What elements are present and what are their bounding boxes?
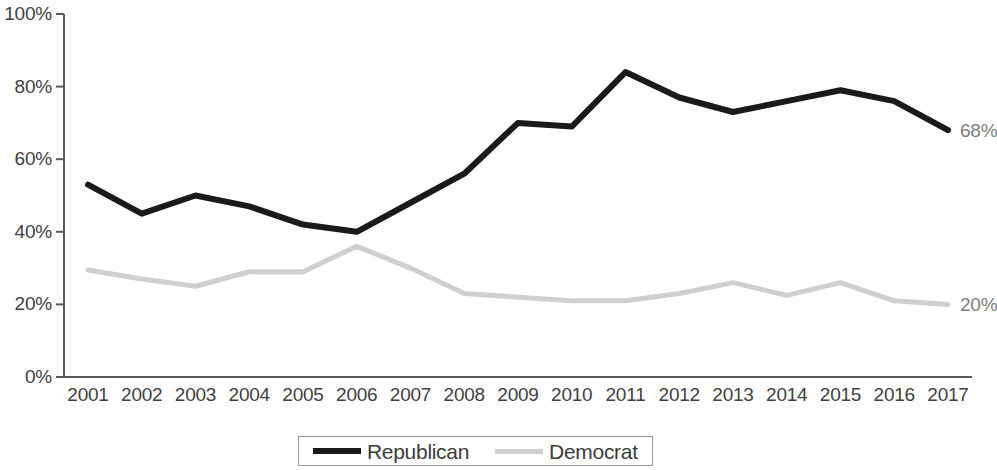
legend-entry-republican[interactable]: Republican	[313, 441, 469, 462]
y-axis-ticks	[56, 14, 64, 377]
plot-canvas	[0, 0, 976, 400]
y-axis-tick-label: 20%	[0, 294, 52, 313]
y-axis-labels: 0%20%40%60%80%100%	[0, 0, 52, 400]
x-axis-tick-label: 2017	[927, 384, 968, 406]
plot-area: 0%20%40%60%80%100% 68% 20%	[0, 0, 976, 400]
x-axis-labels: 2001200220032004200520062007200820092010…	[0, 384, 976, 412]
legend-swatch-republican-icon	[313, 448, 361, 454]
x-axis-tick-label: 2015	[820, 384, 861, 406]
y-axis-tick-label: 60%	[0, 149, 52, 168]
legend-entry-democrat[interactable]: Democrat	[495, 441, 638, 462]
x-axis-tick-label: 2009	[497, 384, 538, 406]
series-line-republican	[88, 72, 948, 232]
chart-legend: Republican Democrat	[298, 436, 653, 466]
x-axis-tick-label: 2012	[659, 384, 700, 406]
x-axis-tick-label: 2002	[121, 384, 162, 406]
x-axis-tick-label: 2007	[390, 384, 431, 406]
democrat-end-value-label: 20%	[960, 295, 997, 314]
x-axis-tick-label: 2004	[229, 384, 270, 406]
x-axis-tick-label: 2005	[282, 384, 323, 406]
series-line-democrat	[88, 246, 948, 304]
x-axis-tick-label: 2014	[766, 384, 807, 406]
x-axis-tick-label: 2006	[336, 384, 377, 406]
republican-end-value-label: 68%	[960, 121, 997, 140]
legend-swatch-democrat-icon	[495, 449, 543, 454]
x-axis-tick-label: 2003	[175, 384, 216, 406]
legend-label-democrat: Democrat	[549, 441, 638, 462]
x-axis-tick-label: 2011	[605, 384, 645, 406]
x-axis-tick-label: 2008	[444, 384, 485, 406]
x-axis-tick-label: 2016	[874, 384, 915, 406]
y-axis-tick-label: 40%	[0, 222, 52, 241]
legend-label-republican: Republican	[367, 441, 469, 462]
x-axis-tick-label: 2001	[67, 384, 108, 406]
x-axis-tick-label: 2010	[551, 384, 592, 406]
x-axis-tick-label: 2013	[712, 384, 753, 406]
y-axis-tick-label: 100%	[0, 4, 52, 23]
y-axis-tick-label: 80%	[0, 77, 52, 96]
